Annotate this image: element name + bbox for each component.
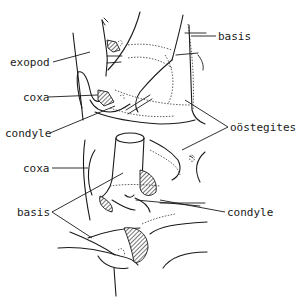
- label-basis-lower: basis: [17, 206, 50, 219]
- label-basis-top: basis: [218, 30, 251, 43]
- label-coxa-lower: coxa: [23, 162, 50, 175]
- label-coxa-upper: coxa: [23, 91, 50, 104]
- upper-coxa-drawing: [77, 72, 195, 124]
- anatomy-diagram: basis exopod coxa condyle oöstegites cox…: [0, 0, 301, 305]
- bottom-segment-drawing: [58, 214, 207, 296]
- label-oostegites: oöstegites: [230, 121, 296, 134]
- lower-limb-drawing: [84, 133, 205, 220]
- label-condyle-lower: condyle: [227, 206, 273, 219]
- label-exopod: exopod: [10, 56, 50, 69]
- label-condyle-upper: condyle: [5, 127, 51, 140]
